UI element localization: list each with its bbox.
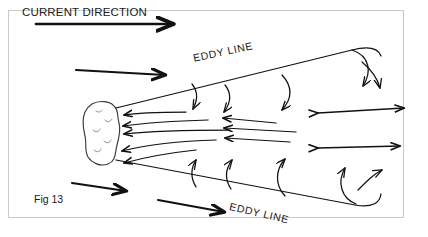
eddy-diagram-artwork bbox=[0, 0, 428, 237]
return-arrow-1 bbox=[124, 112, 186, 115]
shear-arrow-top bbox=[318, 108, 404, 113]
current-direction-label: CURRENT DIRECTION bbox=[22, 6, 147, 18]
downstream-flow-arrow-bottom bbox=[158, 200, 224, 212]
upstream-flow-arrow-top bbox=[76, 70, 165, 75]
shear-arrow-bottom bbox=[318, 146, 400, 148]
eddy-recirculation-curved-arrows-bottom bbox=[192, 159, 382, 204]
center-return-arrow-2 bbox=[224, 128, 296, 132]
return-arrow-3 bbox=[124, 130, 230, 134]
eddy-recirculation-curved-arrows-top bbox=[192, 50, 380, 112]
figure-container: CURRENT DIRECTION EDDY LINE EDDY LINE Fi… bbox=[0, 0, 428, 237]
recirc-top-2 bbox=[224, 85, 230, 112]
recirc-bottom-tail-right bbox=[358, 170, 382, 190]
figure-number-label: Fig 13 bbox=[34, 193, 63, 205]
return-arrow-2 bbox=[123, 120, 208, 126]
center-return-arrow-3 bbox=[225, 138, 290, 142]
eddy-return-flow-arrows bbox=[122, 112, 296, 163]
return-arrow-4 bbox=[122, 140, 216, 151]
recirc-top-3 bbox=[282, 75, 290, 110]
upstream-flow-arrow-bottom bbox=[72, 183, 126, 191]
rock-obstacle bbox=[83, 102, 120, 165]
recirc-bottom-2 bbox=[227, 160, 232, 189]
eddy-line-top bbox=[116, 48, 381, 108]
recirc-top-tail-left bbox=[352, 50, 368, 86]
center-return-arrow-1 bbox=[223, 118, 276, 123]
double-headed-shear-arrows bbox=[318, 108, 404, 148]
recirc-bottom-1 bbox=[192, 160, 196, 187]
return-arrow-5 bbox=[124, 150, 196, 163]
recirc-bottom-tail-left bbox=[341, 168, 356, 204]
